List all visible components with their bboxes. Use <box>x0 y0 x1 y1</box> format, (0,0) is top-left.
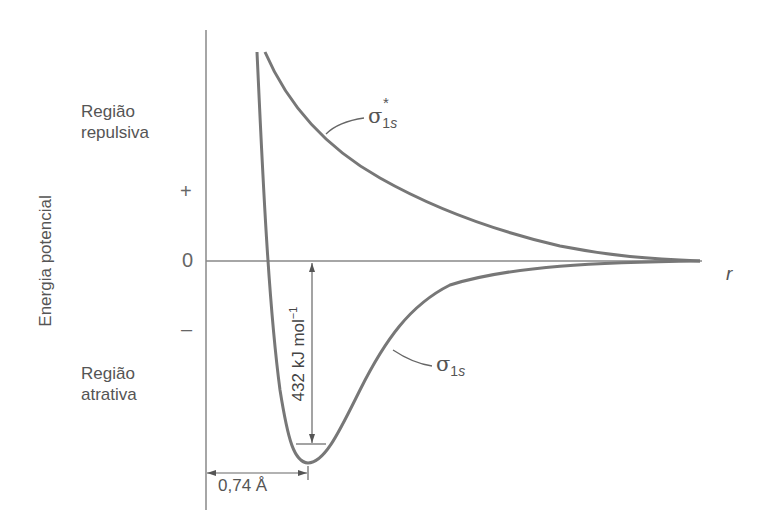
sigma-symbol: σ <box>436 352 450 376</box>
plus-sign: + <box>180 180 192 203</box>
y-axis-label: Energia potencial <box>36 195 56 326</box>
asterisk-superscript: * <box>383 94 389 111</box>
sigma-star-leader <box>326 118 364 134</box>
sigma-star-label: σ*1s <box>368 104 397 131</box>
sigma-sub-letter: s <box>458 363 465 379</box>
arrowhead-up <box>309 263 315 272</box>
bond-energy-value: 432 kJ mol <box>289 319 308 401</box>
arrowhead-down <box>309 434 315 443</box>
sigma-star-sub-num: 1 <box>382 115 390 131</box>
sigma-sub-num: 1 <box>450 363 458 379</box>
sigma-label: σ1s <box>436 352 465 379</box>
sigma-star-curve <box>265 52 700 261</box>
attractive-region-label: Região atrativa <box>81 363 137 405</box>
repulsive-region-label: Região repulsiva <box>81 101 149 143</box>
arrowhead-right <box>298 470 307 476</box>
minus-sign: – <box>181 318 192 341</box>
sigma-star-sub-letter: s <box>390 115 397 131</box>
bond-length-label: 0,74 Å <box>218 476 267 496</box>
attractive-region-line1: Região <box>81 363 137 384</box>
arrowhead-left <box>207 470 216 476</box>
repulsive-region-line2: repulsiva <box>81 122 149 143</box>
repulsive-region-line1: Região <box>81 101 149 122</box>
bond-energy-label: 432 kJ mol−1 <box>287 304 309 405</box>
zero-label: 0 <box>182 249 193 272</box>
attractive-region-line2: atrativa <box>81 384 137 405</box>
r-axis-label: r <box>726 263 732 285</box>
bond-energy-exponent: −1 <box>287 307 299 320</box>
sigma-leader <box>393 350 432 366</box>
sigma-star-symbol: σ <box>368 104 382 128</box>
energy-diagram-canvas <box>0 0 774 526</box>
